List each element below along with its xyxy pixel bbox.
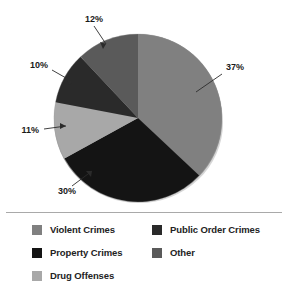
leader-line-other bbox=[94, 26, 106, 44]
legend-item-label: Drug Offenses bbox=[50, 270, 114, 281]
pie-label-property-crimes: 30% bbox=[58, 186, 76, 196]
legend-item-label: Violent Crimes bbox=[50, 224, 115, 235]
chart-legend: Violent Crimes Property Crimes Drug Offe… bbox=[0, 218, 288, 290]
legend-swatch-icon bbox=[32, 248, 42, 258]
pie-chart-svg: 37% 30% 11% 10% 12% bbox=[0, 0, 288, 212]
legend-column-right: Public Order Crimes Other bbox=[152, 218, 260, 264]
pie-label-other: 12% bbox=[85, 14, 103, 24]
legend-divider bbox=[6, 212, 282, 213]
legend-item-other[interactable]: Other bbox=[152, 241, 260, 264]
pie-chart-figure: 37% 30% 11% 10% 12% Violent Crimes Prope… bbox=[0, 0, 288, 296]
legend-item-public-order-crimes[interactable]: Public Order Crimes bbox=[152, 218, 260, 241]
legend-swatch-icon bbox=[152, 248, 162, 258]
legend-item-violent-crimes[interactable]: Violent Crimes bbox=[32, 218, 122, 241]
legend-item-label: Public Order Crimes bbox=[170, 224, 260, 235]
pie-label-violent-crimes: 37% bbox=[226, 62, 244, 72]
legend-item-drug-offenses[interactable]: Drug Offenses bbox=[32, 264, 122, 287]
legend-swatch-icon bbox=[152, 225, 162, 235]
legend-item-label: Other bbox=[170, 247, 195, 258]
legend-swatch-icon bbox=[32, 271, 42, 281]
legend-item-property-crimes[interactable]: Property Crimes bbox=[32, 241, 122, 264]
legend-column-left: Violent Crimes Property Crimes Drug Offe… bbox=[32, 218, 122, 287]
pie-label-public-order-crimes: 10% bbox=[30, 60, 48, 70]
legend-swatch-icon bbox=[32, 225, 42, 235]
pie-label-drug-offenses: 11% bbox=[21, 125, 39, 135]
legend-item-label: Property Crimes bbox=[50, 247, 122, 258]
pie-chart-plot-area: 37% 30% 11% 10% 12% bbox=[0, 0, 288, 212]
